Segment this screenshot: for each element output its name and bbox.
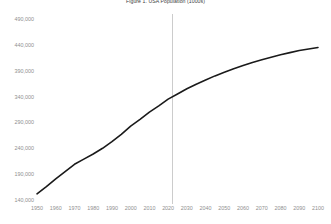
x-tick-label: 2080: [275, 205, 287, 211]
x-tick-label: 2060: [237, 205, 249, 211]
x-tick-label: 2050: [218, 205, 230, 211]
x-tick-label: 2020: [162, 205, 174, 211]
x-tick-label: 1960: [50, 205, 62, 211]
x-tick-label: 1990: [106, 205, 118, 211]
x-tick-label: 2040: [200, 205, 212, 211]
population-line-path: [37, 47, 318, 193]
x-tick-label: 2000: [125, 205, 137, 211]
x-tick-label: 2100: [312, 205, 324, 211]
x-axis-tick-labels: 1950196019701980199020002010202020302040…: [0, 205, 331, 215]
population-line-series: [0, 0, 331, 224]
x-tick-label: 1980: [87, 205, 99, 211]
x-tick-label: 2090: [293, 205, 305, 211]
x-tick-label: 2010: [143, 205, 155, 211]
x-tick-label: 1970: [68, 205, 80, 211]
x-tick-label: 2030: [181, 205, 193, 211]
x-tick-label: 2070: [256, 205, 268, 211]
x-tick-label: 1950: [31, 205, 43, 211]
chart-container: Figure 1. USA Population (1000s) 140,000…: [0, 0, 331, 224]
